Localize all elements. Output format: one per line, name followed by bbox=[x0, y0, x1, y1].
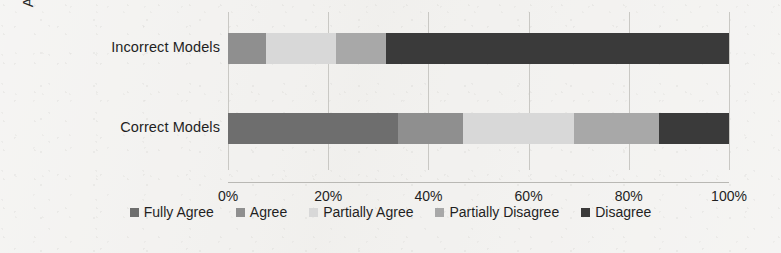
bar-segment-incorrect-models-disagree[interactable] bbox=[386, 33, 729, 64]
x-tick-label-60: 60% bbox=[499, 188, 559, 204]
bar-incorrect-models[interactable] bbox=[228, 33, 729, 64]
x-axis-line bbox=[228, 182, 729, 183]
x-tick-label-0: 0% bbox=[198, 188, 258, 204]
bar-segment-correct-models-agree[interactable] bbox=[398, 113, 463, 144]
legend-label: Partially Agree bbox=[323, 204, 413, 220]
legend-swatch-icon bbox=[581, 208, 590, 217]
legend-item-fully-agree[interactable]: Fully Agree bbox=[130, 204, 214, 220]
plot-area: 0%20%40%60%80%100% bbox=[228, 12, 729, 170]
legend-item-partially-agree[interactable]: Partially Agree bbox=[309, 204, 413, 220]
bar-correct-models[interactable] bbox=[228, 113, 729, 144]
y-axis-title: Acceptance of bbox=[8, 0, 48, 40]
bar-segment-correct-models-partially-agree[interactable] bbox=[463, 113, 573, 144]
bar-segment-correct-models-disagree[interactable] bbox=[659, 113, 729, 144]
bar-segment-incorrect-models-partially-disagree[interactable] bbox=[336, 33, 386, 64]
legend-label: Disagree bbox=[595, 204, 651, 220]
x-tick-label-100: 100% bbox=[699, 188, 759, 204]
gridline-100 bbox=[729, 12, 730, 170]
legend-item-partially-disagree[interactable]: Partially Disagree bbox=[435, 204, 559, 220]
legend-swatch-icon bbox=[130, 208, 139, 217]
legend-label: Fully Agree bbox=[144, 204, 214, 220]
category-label-incorrect-models: Incorrect Models bbox=[52, 39, 220, 55]
legend-swatch-icon bbox=[309, 208, 318, 217]
bar-segment-correct-models-partially-disagree[interactable] bbox=[574, 113, 659, 144]
legend-label: Partially Disagree bbox=[449, 204, 559, 220]
legend-item-disagree[interactable]: Disagree bbox=[581, 204, 651, 220]
category-label-correct-models: Correct Models bbox=[52, 119, 220, 135]
x-tick-label-80: 80% bbox=[599, 188, 659, 204]
chart-legend: Fully AgreeAgreePartially AgreePartially… bbox=[0, 204, 781, 220]
legend-swatch-icon bbox=[435, 208, 444, 217]
bar-segment-correct-models-fully-agree[interactable] bbox=[228, 113, 398, 144]
legend-swatch-icon bbox=[236, 208, 245, 217]
x-tick-label-20: 20% bbox=[298, 188, 358, 204]
legend-label: Agree bbox=[250, 204, 287, 220]
stacked-bar-chart: Acceptance of Incorrect Models Correct M… bbox=[0, 0, 781, 253]
bar-segment-incorrect-models-agree[interactable] bbox=[228, 33, 266, 64]
x-tick-label-40: 40% bbox=[398, 188, 458, 204]
bar-segment-incorrect-models-partially-agree[interactable] bbox=[266, 33, 336, 64]
legend-item-agree[interactable]: Agree bbox=[236, 204, 287, 220]
